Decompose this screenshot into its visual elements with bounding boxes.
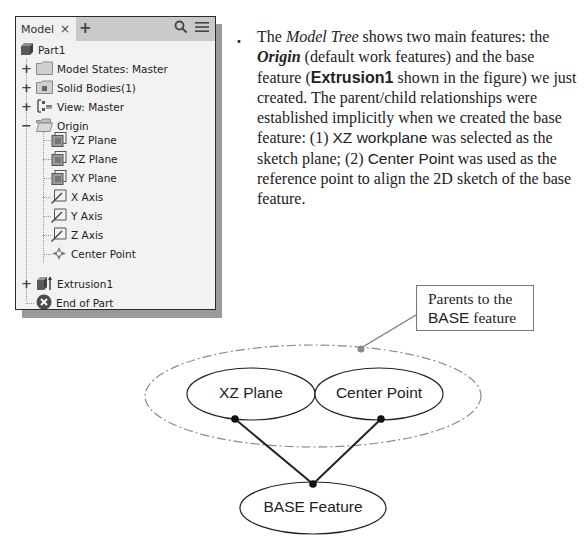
connection-dot (309, 480, 317, 488)
base-feature-label: BASE Feature (240, 498, 386, 516)
callout-leader-line (361, 315, 416, 348)
connection-dot (231, 415, 239, 423)
callout-line-2: feature (469, 309, 516, 326)
xz-plane-label: XZ Plane (187, 384, 315, 402)
link-xz-to-base (235, 419, 313, 484)
leader-dot (358, 346, 365, 353)
center-point-label: Center Point (315, 384, 443, 402)
callout-box: Parents to the BASE feature (416, 285, 534, 331)
callout-line-1: Parents to the (428, 289, 533, 308)
callout-base-term: BASE (428, 309, 469, 326)
parent-child-diagram (0, 0, 586, 540)
connection-dot (377, 415, 385, 423)
link-center-to-base (313, 419, 381, 484)
